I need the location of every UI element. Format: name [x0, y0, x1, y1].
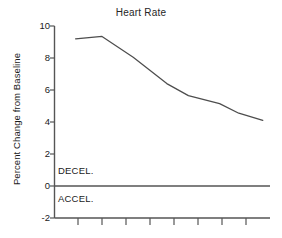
- y-tick-label-neg2: -2: [26, 213, 50, 223]
- accel-annotation: ACCEL.: [58, 193, 94, 204]
- y-tick-label-8: 8: [26, 53, 50, 63]
- y-tick-label-2: 2: [26, 149, 50, 159]
- y-axis-tick-labels: 10 8 6 4 2 0 -2: [24, 0, 50, 238]
- y-tick-label-6: 6: [26, 85, 50, 95]
- y-axis-title-container: Percent Change from Baseline: [6, 0, 26, 238]
- y-tick-label-4: 4: [26, 117, 50, 127]
- data-line-heart-rate: [76, 36, 263, 120]
- plot-svg: [54, 26, 270, 218]
- y-axis-title: Percent Change from Baseline: [11, 53, 22, 185]
- plot-area: [54, 26, 270, 218]
- chart-figure: Heart Rate Percent Change from Baseline …: [0, 0, 282, 238]
- x-axis-ticks: [78, 218, 246, 225]
- y-tick-label-10: 10: [26, 21, 50, 31]
- decel-annotation: DECEL.: [58, 165, 94, 176]
- y-tick-label-0: 0: [26, 181, 50, 191]
